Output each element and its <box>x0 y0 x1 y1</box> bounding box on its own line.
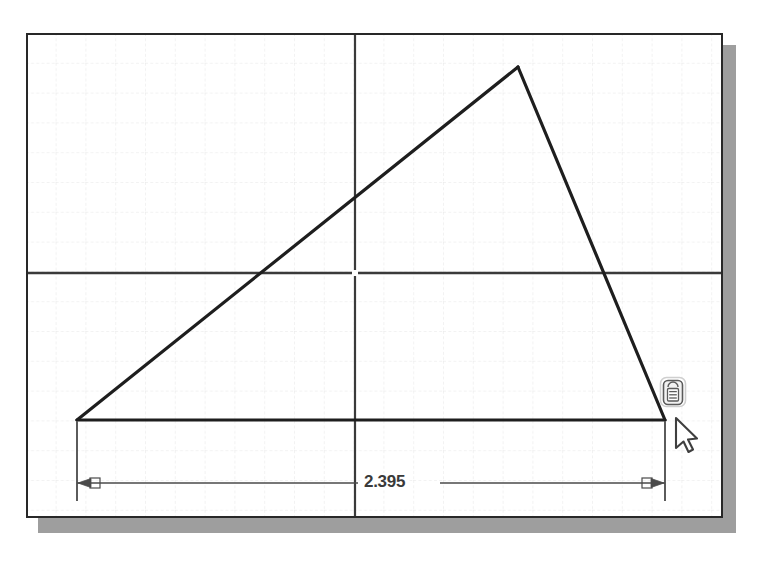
sketch-canvas-svg <box>28 35 721 516</box>
sketch-application-window: 2.395 <box>0 0 761 561</box>
origin-point-marker <box>352 270 358 276</box>
dimension-badge-icon <box>661 378 686 407</box>
sketch-graphics-window[interactable]: 2.395 <box>26 33 723 518</box>
grid-lines <box>28 35 721 516</box>
sketch-canvas[interactable]: 2.395 <box>28 35 721 516</box>
dimension-value-text[interactable]: 2.395 <box>360 473 409 490</box>
